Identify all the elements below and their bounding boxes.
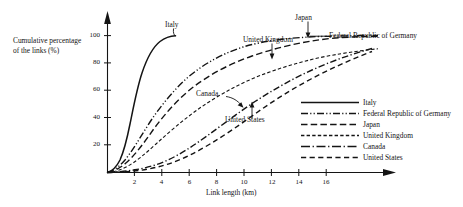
legend-label-japan: Japan xyxy=(363,120,380,129)
y-axis-title-line-2: of the links (%) xyxy=(13,46,105,56)
legend-item-japan[interactable]: Japan xyxy=(299,119,451,130)
legend: Italy Federal Republic of Germany Japan … xyxy=(299,97,451,163)
legend-swatch-japan xyxy=(299,120,359,129)
annotation-italy: Italy xyxy=(165,20,179,29)
curve-italy xyxy=(108,36,176,173)
legend-label-united-kingdom: United Kingdom xyxy=(363,131,413,140)
x-tick-label-6: 6 xyxy=(182,178,197,186)
annotation-federal-republic-of-germany: Federal Republic of Germany xyxy=(329,31,417,40)
legend-label-united-states: United States xyxy=(363,153,403,162)
legend-label-italy: Italy xyxy=(363,98,377,107)
legend-swatch-united-states xyxy=(299,153,359,162)
annotation-united-states: United States xyxy=(225,115,265,124)
legend-item-canada[interactable]: Canada xyxy=(299,141,451,152)
y-tick-label-60: 60 xyxy=(84,85,100,93)
annotation-canada: Canada xyxy=(196,89,218,98)
legend-swatch-italy xyxy=(299,98,359,107)
legend-item-united-kingdom[interactable]: United Kingdom xyxy=(299,130,451,141)
y-tick-label-20: 20 xyxy=(84,140,100,148)
x-tick-label-16: 16 xyxy=(318,178,334,186)
legend-label-canada: Canada xyxy=(363,142,385,151)
figure-canvas: Cumulative percentage of the links (%) L… xyxy=(0,0,463,207)
legend-item-italy[interactable]: Italy xyxy=(299,97,451,108)
legend-item-federal-republic-of-germany[interactable]: Federal Republic of Germany xyxy=(299,108,451,119)
legend-label-federal-republic-of-germany: Federal Republic of Germany xyxy=(363,109,451,118)
y-axis-title: Cumulative percentage of the links (%) xyxy=(13,36,105,56)
x-tick-label-10: 10 xyxy=(236,178,252,186)
y-tick-label-80: 80 xyxy=(84,58,100,66)
x-tick-label-8: 8 xyxy=(209,178,224,186)
y-tick-label-40: 40 xyxy=(84,113,100,121)
x-tick-label-4: 4 xyxy=(154,178,169,186)
legend-swatch-united-kingdom xyxy=(299,131,359,140)
y-tick-label-100: 100 xyxy=(84,31,100,39)
x-tick-label-14: 14 xyxy=(291,178,307,186)
annotation-united-kingdom: United Kingdom xyxy=(243,35,293,44)
legend-item-united-states[interactable]: United States xyxy=(299,152,451,163)
annotation-japan: Japan xyxy=(295,13,312,22)
x-tick-label-2: 2 xyxy=(127,178,142,186)
x-axis-title: Link length (km) xyxy=(206,188,257,198)
legend-swatch-federal-republic-of-germany xyxy=(299,109,359,118)
x-tick-label-12: 12 xyxy=(264,178,280,186)
legend-swatch-canada xyxy=(299,142,359,151)
